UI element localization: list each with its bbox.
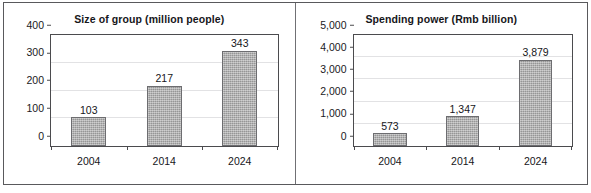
- bar-2024[interactable]: 3,879: [519, 60, 553, 146]
- y-axis-tick-label: 1,000: [320, 108, 353, 119]
- bar-group: 3,879: [499, 35, 572, 146]
- bar-value-label: 103: [80, 105, 98, 116]
- bar-value-label: 3,879: [522, 47, 548, 58]
- bar-value-label: 1,347: [450, 104, 476, 115]
- bar-2004[interactable]: 573: [373, 133, 407, 146]
- y-axis-tick-label: 200: [26, 75, 51, 86]
- bar-series-size-of-group: 103217343: [51, 35, 278, 146]
- chart-panel-size-of-group: Size of group (million people) 010020030…: [4, 3, 296, 184]
- bar-2014[interactable]: 217: [147, 86, 182, 146]
- bar-series-spending-power: 5731,3473,879: [354, 35, 573, 146]
- y-axis-tick-label: 2,000: [320, 86, 353, 97]
- figure-container: Size of group (million people) 010020030…: [3, 2, 588, 185]
- y-axis-tick-label: 100: [26, 103, 51, 114]
- x-axis-spending-power: 200420142024: [354, 146, 573, 176]
- plot-area-size-of-group: 0100200300400 103217343 200420142024: [50, 34, 279, 147]
- y-axis-tick-label: 0: [38, 130, 51, 141]
- x-axis-size-of-group: 200420142024: [51, 146, 278, 176]
- y-axis-tick-label: 300: [26, 47, 51, 58]
- y-axis-tick-label: 4,000: [320, 41, 353, 52]
- bar-value-label: 573: [381, 121, 399, 132]
- y-axis-tick-label: 5,000: [320, 19, 353, 30]
- plot-area-spending-power: 01,0002,0003,0004,0005,000 5731,3473,879…: [353, 34, 574, 147]
- bar-2014[interactable]: 1,347: [446, 116, 480, 146]
- x-axis-tick-label-2004: 2004: [354, 146, 427, 176]
- bar-group: 343: [202, 35, 278, 146]
- bar-value-label: 343: [231, 38, 249, 49]
- y-axis-tick-label: 400: [26, 19, 51, 30]
- bar-group: 1,347: [426, 35, 499, 146]
- bar-value-label: 217: [155, 73, 173, 84]
- chart-panel-spending-power: Spending power (Rmb billion) 01,0002,000…: [296, 3, 588, 184]
- bar-group: 573: [354, 35, 427, 146]
- x-axis-tick-label-2004: 2004: [51, 146, 127, 176]
- y-axis-tick-label: 3,000: [320, 64, 353, 75]
- x-axis-tick-label-2024: 2024: [499, 146, 572, 176]
- bar-2024[interactable]: 343: [222, 51, 257, 146]
- x-axis-tick-label-2024: 2024: [202, 146, 278, 176]
- bar-2004[interactable]: 103: [71, 117, 106, 146]
- x-axis-tick-label-2014: 2014: [127, 146, 203, 176]
- x-axis-tick-label-2014: 2014: [426, 146, 499, 176]
- bar-group: 217: [127, 35, 203, 146]
- bar-group: 103: [51, 35, 127, 146]
- y-axis-tick-label: 0: [341, 130, 354, 141]
